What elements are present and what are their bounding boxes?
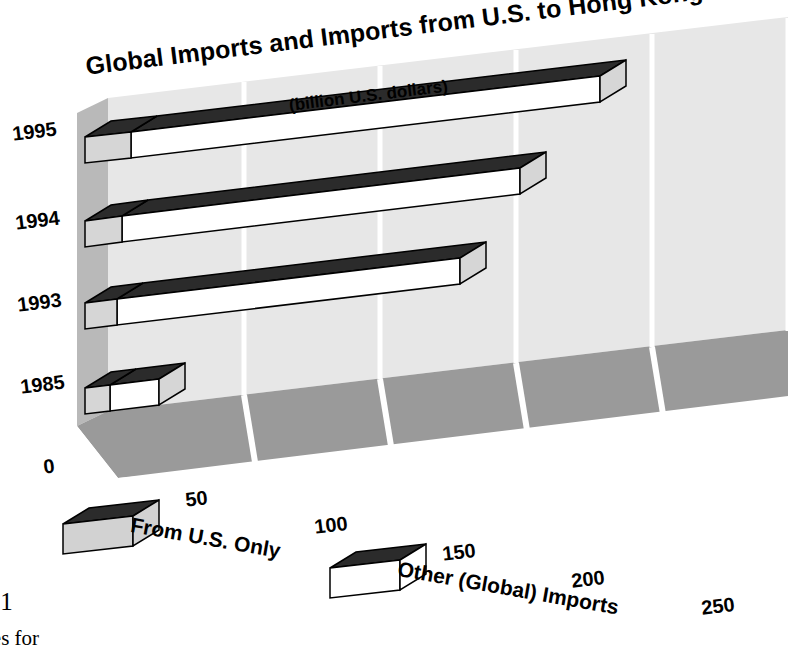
bar-1993-us-front — [85, 299, 117, 329]
bar-1985-other-front — [110, 379, 159, 411]
axis-tick-100: 100 — [313, 512, 349, 539]
bar-1994-us-front — [85, 216, 122, 247]
bar-1995-us-front — [85, 132, 131, 163]
bar-1985-us-front — [85, 385, 110, 414]
chart-figure: Global Imports and Imports from U.S. to … — [0, 0, 788, 652]
axis-tick-150: 150 — [441, 539, 477, 566]
caption-fragment-line-2: ies for — [0, 626, 39, 651]
caption-fragment-line-1: .1 — [0, 588, 13, 616]
axis-tick-50: 50 — [184, 486, 209, 512]
axis-tick-250: 250 — [700, 593, 736, 620]
